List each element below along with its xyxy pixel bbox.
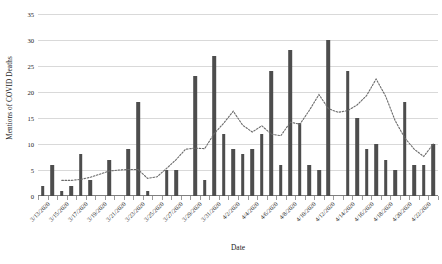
x-axis-tick-label: 3/29/2020: [180, 200, 203, 223]
x-axis-tick: [76, 196, 77, 200]
x-axis-tick: [143, 196, 144, 200]
x-axis-tick: [162, 196, 163, 200]
x-axis-tick: [305, 196, 306, 200]
x-axis-tick: [381, 196, 382, 200]
x-axis-tick: [314, 196, 315, 200]
x-axis-tick: [200, 196, 201, 200]
plot-area: [38, 14, 438, 196]
x-axis-tick: [419, 196, 420, 200]
x-axis-tick: [38, 196, 39, 200]
x-axis-tick: [67, 196, 68, 200]
x-axis-tick: [181, 196, 182, 200]
x-axis-tick-label: 3/23/2020: [123, 200, 146, 223]
y-axis-tick-label: 5: [31, 167, 34, 174]
x-axis-tick-label: 3/17/2020: [66, 200, 89, 223]
x-axis-tick: [57, 196, 58, 200]
x-axis-tick: [362, 196, 363, 200]
x-axis-tick: [105, 196, 106, 200]
x-axis-tick-label: 4/14/2020: [333, 200, 356, 223]
x-axis-tick: [390, 196, 391, 200]
x-axis-tick-label: 3/25/2020: [142, 200, 165, 223]
x-axis-tick: [48, 196, 49, 200]
trend-line-series: [38, 14, 438, 196]
x-axis-tick: [400, 196, 401, 200]
x-axis-tick: [409, 196, 410, 200]
x-axis-tick: [257, 196, 258, 200]
y-axis-title: Mentions of COVID Deaths: [2, 0, 18, 196]
x-axis-tick-label: 4/4/2020: [240, 200, 261, 221]
y-axis-tick-label: 0: [31, 193, 34, 200]
x-axis-tick: [171, 196, 172, 200]
x-axis-tick: [428, 196, 429, 200]
x-axis-tick: [352, 196, 353, 200]
x-axis-tick-label: 3/19/2020: [85, 200, 108, 223]
x-axis-tick-label: 3/13/2020: [28, 200, 51, 223]
y-axis-tick-label: 25: [27, 63, 34, 70]
x-axis-tick: [248, 196, 249, 200]
x-axis-tick: [190, 196, 191, 200]
y-axis-title-text: Mentions of COVID Deaths: [6, 56, 14, 140]
x-axis-tick-label: 4/2/2020: [221, 200, 242, 221]
x-axis-tick: [276, 196, 277, 200]
x-axis-tick: [295, 196, 296, 200]
x-axis-title: Date: [38, 243, 438, 252]
x-axis-tick: [95, 196, 96, 200]
y-axis-tick-label: 10: [27, 141, 34, 148]
x-axis-tick: [371, 196, 372, 200]
x-axis-tick: [324, 196, 325, 200]
x-axis-tick-label: 3/21/2020: [104, 200, 127, 223]
x-axis-tick: [124, 196, 125, 200]
x-axis-tick: [267, 196, 268, 200]
x-axis-tick-label: 3/15/2020: [47, 200, 70, 223]
y-axis-tick-label: 15: [27, 115, 34, 122]
x-axis-tick: [333, 196, 334, 200]
x-axis-tick: [343, 196, 344, 200]
x-axis-tick: [86, 196, 87, 200]
x-axis-tick: [219, 196, 220, 200]
x-axis-tick: [228, 196, 229, 200]
trend-line-path: [62, 79, 433, 180]
x-axis-tick-label: 4/6/2020: [259, 200, 280, 221]
y-axis-tick-label: 30: [27, 37, 34, 44]
x-axis-tick: [438, 196, 439, 200]
y-axis-tick-label: 35: [27, 11, 34, 18]
y-axis-tick-label: 20: [27, 89, 34, 96]
x-axis-tick: [114, 196, 115, 200]
x-axis-tick-label: 4/12/2020: [314, 200, 337, 223]
x-axis-tick: [286, 196, 287, 200]
x-axis-tick: [238, 196, 239, 200]
x-axis-tick: [209, 196, 210, 200]
covid-deaths-mentions-chart: Mentions of COVID Deaths 05101520253035 …: [0, 0, 442, 264]
x-axis-tick-labels: 3/13/20203/15/20203/17/20203/19/20203/21…: [38, 200, 438, 240]
y-axis-tick-labels: 05101520253035: [18, 14, 36, 196]
x-axis-tick-label: 3/31/2020: [199, 200, 222, 223]
x-axis-tick-label: 3/27/2020: [161, 200, 184, 223]
x-axis-tick: [152, 196, 153, 200]
x-axis-tick: [133, 196, 134, 200]
